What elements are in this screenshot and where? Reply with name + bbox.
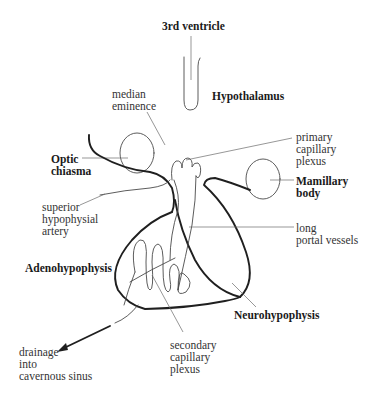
label-long-portal-vessels: long portal vessels (296, 222, 358, 246)
label-primary-capillary-plexus: primary capillary plexus (296, 131, 336, 168)
third-ventricle-shape (184, 57, 200, 110)
mamillary-body-shape (246, 159, 280, 199)
secondary-plexus-vein (124, 272, 135, 305)
label-mamillary-body: Mamillary body (296, 175, 348, 199)
label-median-eminence: median eminence (112, 88, 156, 112)
secondary-capillary-plexus-loops (133, 240, 190, 294)
primary-capillary-plexus-leader (186, 138, 292, 160)
label-secondary-capillary-plexus: secondary capillary plexus (170, 339, 217, 376)
label-drainage: drainage into cavernous sinus (19, 346, 92, 383)
label-hypothalamus: Hypothalamus (212, 90, 284, 102)
hypothalamic-floor-left (89, 135, 174, 212)
pituitary-portal-diagram: 3rd ventricle Hypothalamus median eminen… (0, 0, 372, 402)
drainage-vein (115, 305, 138, 323)
label-adenohypophysis: Adenohypophysis (25, 262, 112, 274)
label-optic-chiasma: Optic chiasma (51, 153, 91, 177)
label-neurohypophysis: Neurohypophysis (234, 309, 319, 321)
hypothalamic-floor-right (204, 178, 250, 297)
superior-hypophysial-artery (100, 180, 170, 195)
neurohypophysis-boundary (175, 200, 240, 297)
label-third-ventricle: 3rd ventricle (162, 20, 225, 32)
infundibular-stalk-left (170, 180, 179, 260)
label-superior-hypophysial-artery: superior hypophysial artery (42, 201, 98, 238)
